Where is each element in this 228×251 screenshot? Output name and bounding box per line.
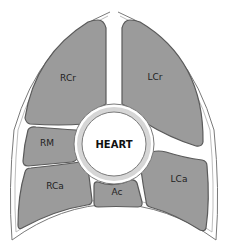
region-label-rm: RM: [40, 138, 54, 148]
region-label-ac: Ac: [112, 187, 123, 197]
region-label-lca: LCa: [171, 174, 188, 184]
region-lca: [141, 151, 208, 231]
region-rca: [18, 162, 92, 229]
region-label-lcr: LCr: [148, 72, 163, 82]
region-label-rcr: RCr: [60, 73, 76, 83]
region-label-rca: RCa: [46, 181, 64, 191]
heart-label: HEART: [95, 139, 132, 150]
lung-diagram: HEART RCr LCr RM RCa Ac LCa: [0, 0, 228, 251]
